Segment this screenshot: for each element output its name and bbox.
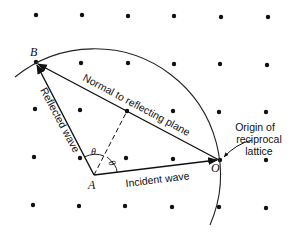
lattice-point: [170, 205, 174, 209]
lattice-point: [78, 156, 82, 160]
lattice-point: [218, 62, 222, 66]
point-label-O: O: [211, 161, 220, 175]
origin-label-line1: Origin of: [235, 121, 275, 133]
lattice-point: [264, 158, 268, 162]
lattice-point: [172, 62, 176, 66]
lattice-point: [126, 14, 130, 18]
lattice-point: [171, 109, 175, 113]
normal-label: Normal to reflecting plane: [81, 71, 192, 138]
lattice-point: [80, 13, 84, 17]
lattice-point: [123, 204, 127, 208]
lattice-point: [34, 13, 38, 17]
lattice-point: [78, 108, 82, 112]
lattice-point: [33, 107, 37, 111]
origin-label-line2: reciprocal: [236, 133, 282, 145]
lattice-point: [217, 205, 221, 209]
theta-label-incident: θ: [106, 158, 118, 168]
lattice-point: [126, 61, 130, 65]
lattice-point: [265, 63, 269, 67]
lattice-point: [171, 157, 175, 161]
point-label-A: A: [87, 178, 96, 192]
ewald-sphere-arc: [15, 49, 220, 225]
diagram-canvas: B A O θ θ Normal to reflecting plane Ref…: [0, 0, 305, 239]
point-label-B: B: [30, 45, 38, 59]
origin-label-line3: lattice: [245, 145, 273, 157]
midpoint-dot: [125, 109, 129, 113]
lattice-point: [264, 206, 268, 210]
lattice-point: [77, 204, 81, 208]
lattice-point: [172, 14, 176, 18]
lattice-point: [124, 156, 128, 160]
lattice-point: [32, 155, 36, 159]
lattice-point: [219, 15, 223, 19]
lattice-point: [79, 61, 83, 65]
lattice-point: [217, 110, 221, 114]
lattice-point: [266, 15, 270, 19]
incident-wave-label: Incident wave: [125, 169, 190, 189]
theta-label-reflected: θ: [91, 146, 96, 157]
reflected-wave-label: Reflected wave: [38, 85, 82, 154]
lattice-point: [31, 203, 35, 207]
lattice-point: [264, 110, 268, 114]
